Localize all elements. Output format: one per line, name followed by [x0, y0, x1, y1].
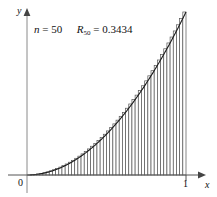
y-axis-label: y — [17, 6, 21, 16]
riemann-annotation: n = 50 R50 = 0.3434 — [34, 24, 132, 35]
riemann-rectangle — [126, 108, 129, 175]
x-tick-label-1: 1 — [183, 179, 188, 189]
riemann-rectangle — [148, 76, 151, 175]
riemann-rectangle — [81, 154, 84, 175]
riemann-rectangle — [75, 158, 78, 175]
riemann-rectangle — [91, 146, 94, 175]
riemann-rectangle — [135, 95, 138, 175]
riemann-rectangles — [30, 12, 186, 175]
origin-label: 0 — [18, 178, 23, 188]
riemann-rectangle — [161, 54, 164, 175]
riemann-rectangle — [122, 112, 125, 175]
riemann-rectangle — [110, 127, 113, 175]
riemann-rectangle — [116, 120, 119, 175]
riemann-rectangle — [151, 71, 154, 175]
riemann-rectangle — [107, 131, 110, 175]
riemann-sum-figure: n = 50 R50 = 0.3434 y x 0 1 — [0, 0, 217, 197]
y-axis-arrow-icon — [24, 8, 31, 16]
riemann-rectangle — [176, 25, 179, 175]
riemann-rectangle — [183, 12, 186, 175]
riemann-rectangle — [138, 91, 141, 176]
riemann-rectangle — [119, 116, 122, 175]
n-value: 50 — [51, 23, 62, 35]
riemann-rectangle — [78, 156, 81, 175]
riemann-rectangle — [145, 81, 148, 175]
riemann-rectangle — [180, 18, 183, 175]
riemann-rectangle — [164, 49, 167, 175]
x-axis-label: x — [205, 180, 209, 190]
r-subscript: 50 — [83, 29, 90, 37]
riemann-rectangle — [154, 65, 157, 175]
riemann-rectangle — [103, 134, 106, 175]
riemann-rectangle — [132, 100, 135, 175]
riemann-rectangle — [87, 149, 90, 175]
x-axis-arrow-icon — [198, 172, 206, 179]
riemann-rectangle — [84, 151, 87, 175]
n-equals-sign: = — [42, 23, 48, 35]
riemann-rectangle — [100, 137, 103, 175]
riemann-rectangle — [129, 104, 132, 175]
n-symbol: n — [34, 23, 40, 35]
riemann-rectangle — [167, 43, 170, 175]
r-equals-sign: = — [93, 23, 99, 35]
riemann-rectangle — [141, 86, 144, 175]
r-value: 0.3434 — [102, 23, 132, 35]
riemann-rectangle — [157, 60, 160, 175]
riemann-rectangle — [113, 124, 116, 175]
riemann-rectangle — [97, 141, 100, 175]
riemann-rectangle — [173, 31, 176, 175]
riemann-rectangle — [170, 37, 173, 175]
riemann-rectangle — [94, 143, 97, 175]
